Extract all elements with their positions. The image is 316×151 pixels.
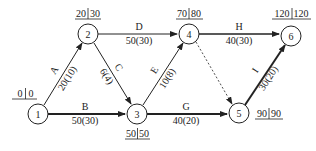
node-5-label: 5	[237, 108, 242, 119]
node-5-late: 90	[271, 108, 281, 119]
edge-C-duration: 6(4)	[97, 66, 116, 86]
node-2-late: 30	[90, 8, 100, 19]
node-2: 2 20 30	[75, 8, 101, 44]
node-1-label: 1	[36, 109, 41, 120]
edge-B-name: B	[82, 101, 89, 112]
edge-E-duration: 10(8)	[157, 66, 179, 91]
edge-H-duration: 40(30)	[226, 35, 253, 47]
edge-G: G 40(20)	[147, 101, 227, 127]
edge-H-name: H	[235, 21, 242, 32]
edge-B-duration: 50(30)	[72, 115, 99, 127]
node-6-early: 120	[275, 8, 290, 19]
edge-I-name: I	[250, 66, 261, 75]
network-diagram: A 20(10) B 50(30) C 6(4) D 50(30) E 10(8…	[0, 0, 316, 151]
edge-G-name: G	[182, 101, 189, 112]
node-6-label: 6	[289, 31, 294, 42]
edge-E: E 10(8)	[143, 43, 183, 105]
node-3-early: 50	[126, 128, 136, 139]
edge-G-duration: 40(20)	[173, 115, 200, 127]
edge-D-name: D	[135, 21, 142, 32]
edge-E-name: E	[148, 65, 161, 76]
edge-dummy	[196, 42, 232, 104]
node-5: 5 90 90	[229, 103, 283, 123]
node-1-early: 0	[18, 88, 23, 99]
node-6: 6 120 120	[272, 8, 311, 46]
edge-A-duration: 20(10)	[55, 64, 79, 93]
edge-D: D 50(30)	[98, 21, 177, 47]
edge-A: A 20(10)	[44, 43, 82, 105]
edge-A-name: A	[47, 64, 61, 77]
node-4-label: 4	[187, 29, 192, 40]
edge-I-duration: 30(20)	[256, 64, 281, 93]
node-6-late: 120	[294, 8, 309, 19]
node-4-late: 80	[191, 8, 201, 19]
node-3-label: 3	[135, 109, 140, 120]
edge-C: C 6(4)	[94, 43, 131, 104]
edge-C-name: C	[113, 61, 126, 73]
node-1-late: 0	[29, 88, 34, 99]
edge-B: B 50(30)	[48, 101, 125, 127]
edge-H: H 40(30)	[199, 21, 279, 47]
node-2-early: 20	[76, 8, 86, 19]
node-4: 4 70 80	[176, 8, 203, 44]
node-2-label: 2	[86, 29, 91, 40]
node-1: 1 0 0	[12, 88, 48, 124]
edge-D-duration: 50(30)	[126, 35, 153, 47]
node-3-late: 50	[139, 128, 149, 139]
node-4-early: 70	[177, 8, 187, 19]
node-5-early: 90	[257, 108, 267, 119]
node-3: 3 50 50	[125, 104, 150, 139]
edge-I: I 30(20)	[245, 45, 285, 105]
